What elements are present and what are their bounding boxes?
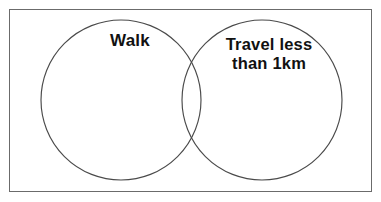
set-label-walk: Walk [78, 31, 182, 51]
set-label-travel-less-than-1km: Travel less than 1km [214, 35, 324, 74]
venn-diagram-figure: Walk Travel less than 1km [0, 0, 381, 202]
venn-circles-svg [0, 0, 381, 202]
